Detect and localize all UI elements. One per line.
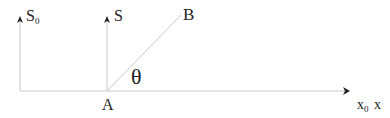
label-b: B: [183, 6, 194, 23]
diagram-canvas: [0, 0, 390, 118]
label-x: x: [374, 98, 381, 112]
label-a: A: [102, 97, 114, 113]
label-s0-subscript: 0: [35, 16, 40, 26]
label-a-text: A: [102, 96, 114, 113]
label-x0: x0: [357, 98, 369, 114]
label-s0-main: S: [26, 7, 35, 24]
label-theta: θ: [131, 66, 142, 88]
label-b-text: B: [183, 5, 194, 24]
label-x0-main: x: [357, 97, 364, 112]
label-s0: S0: [26, 8, 39, 26]
line-ab: [107, 15, 181, 91]
label-x-text: x: [374, 97, 381, 112]
label-theta-text: θ: [131, 64, 142, 89]
label-s-text: S: [114, 7, 123, 24]
label-s: S: [114, 8, 123, 24]
label-x0-subscript: 0: [364, 104, 369, 114]
